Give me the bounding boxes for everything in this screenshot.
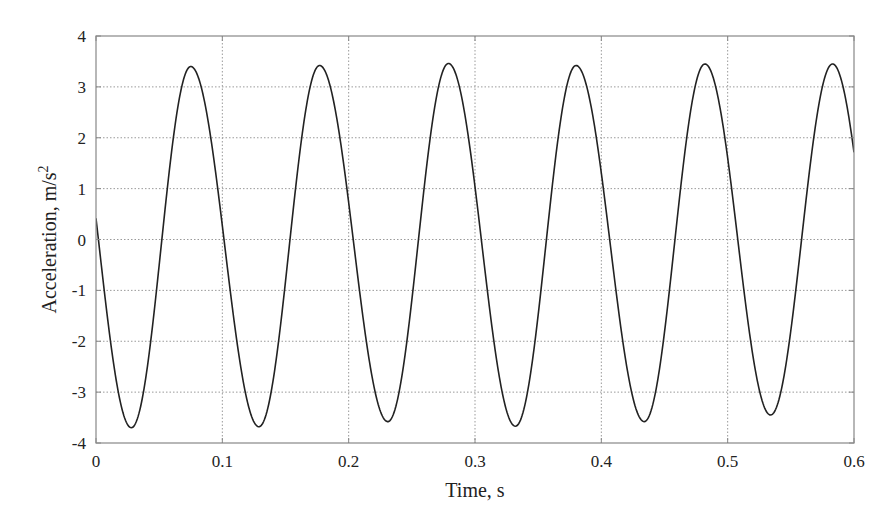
y-tick-label: -4 bbox=[72, 434, 87, 453]
y-tick-label: -1 bbox=[72, 281, 86, 300]
y-tick-label: 1 bbox=[78, 180, 87, 199]
y-axis-title-superscript: 2 bbox=[36, 165, 51, 172]
y-axis-title-main: Acceleration, m/s bbox=[38, 172, 60, 313]
y-tick-label: 2 bbox=[78, 129, 87, 148]
x-tick-label: 0.4 bbox=[591, 452, 613, 471]
y-tick-label: 4 bbox=[78, 27, 87, 46]
y-tick-label: -3 bbox=[72, 383, 86, 402]
x-tick-label: 0.5 bbox=[717, 452, 738, 471]
x-tick-label: 0.2 bbox=[338, 452, 359, 471]
x-tick-label: 0.3 bbox=[464, 452, 485, 471]
y-axis-title: Acceleration, m/s2 bbox=[36, 165, 60, 313]
grid-lines bbox=[96, 36, 854, 443]
x-axis-title: Time, s bbox=[445, 479, 505, 501]
chart: 00.10.20.30.40.50.6 -4-3-2-101234 Time, … bbox=[0, 0, 890, 529]
y-tick-label: -2 bbox=[72, 332, 86, 351]
y-tick-label: 0 bbox=[78, 231, 87, 250]
x-axis-ticks: 00.10.20.30.40.50.6 bbox=[92, 36, 865, 471]
x-tick-label: 0 bbox=[92, 452, 101, 471]
x-tick-label: 0.6 bbox=[843, 452, 864, 471]
y-tick-label: 3 bbox=[78, 78, 87, 97]
x-tick-label: 0.1 bbox=[212, 452, 233, 471]
